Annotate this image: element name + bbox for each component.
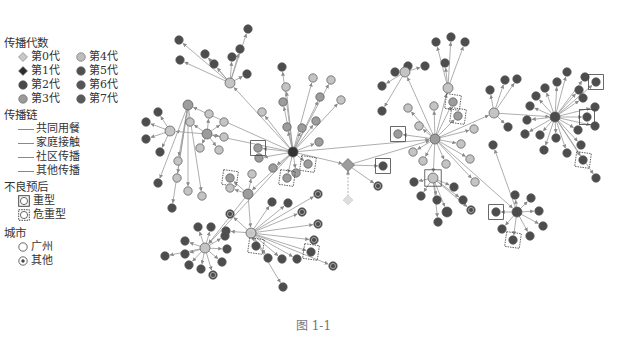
case-node: [268, 198, 276, 206]
case-node: [553, 78, 561, 86]
case-node: [391, 68, 399, 76]
transmission-edge: [183, 43, 230, 83]
case-node: [174, 157, 182, 165]
legend-generation-item: 第4代: [76, 50, 134, 64]
legend-prognosis-item: 重型: [4, 194, 134, 208]
legend-generation-item: 第6代: [76, 78, 134, 92]
generation-circle-icon: [76, 80, 86, 90]
case-node: [536, 131, 544, 139]
case-node: [505, 232, 522, 249]
legend-city-label: 其他: [31, 254, 53, 268]
case-node: [526, 232, 534, 240]
transmission-edge: [293, 140, 429, 152]
transmission-edge: [437, 47, 448, 88]
case-node: [236, 45, 244, 53]
case-node: [142, 118, 150, 126]
transmission-edge: [185, 62, 230, 83]
case-node: [223, 245, 231, 253]
case-node: [574, 126, 582, 134]
square-icon: [18, 195, 30, 207]
case-node: [327, 76, 335, 84]
transmission-edge: [495, 150, 517, 212]
case-node-hub: [225, 78, 235, 88]
case-node: [459, 196, 467, 204]
generation-diamond-icon: [18, 66, 28, 76]
legend-generation-item: 第1代: [18, 64, 76, 78]
legend-chain-label: 共同用餐: [36, 122, 80, 136]
case-node: [563, 149, 571, 157]
case-node: [314, 220, 322, 228]
case-node-hub: [288, 147, 298, 157]
case-node: [457, 140, 465, 148]
case-node: [244, 25, 252, 33]
legend-city-item: 广州: [4, 240, 134, 254]
legend-generation-item: 第7代: [76, 92, 134, 106]
case-node: [210, 60, 218, 68]
transmission-edge: [435, 94, 447, 139]
case-node: [432, 38, 440, 46]
edge-layer: [151, 34, 593, 283]
case-node: [258, 108, 266, 116]
case-node: [248, 170, 256, 178]
case-node: [527, 194, 535, 202]
case-node: [175, 36, 183, 44]
legend-chain-item: 社区传播: [4, 150, 134, 164]
case-node: [278, 63, 286, 71]
transmission-edge: [555, 117, 593, 174]
case-node: [486, 86, 494, 94]
case-node: [580, 110, 595, 125]
case-node: [442, 160, 450, 168]
case-node: [279, 98, 287, 106]
case-node: [314, 190, 322, 198]
case-node-hub: [442, 207, 452, 217]
legend-city-list: 广州其他: [4, 240, 134, 268]
legend-prognosis-list: 重型危重型: [4, 194, 134, 222]
case-node: [312, 117, 320, 125]
case-node-hub: [200, 243, 210, 253]
transmission-edge: [234, 87, 293, 152]
case-node: [282, 83, 290, 91]
case-node-hub: [550, 112, 560, 122]
case-node: [471, 178, 479, 186]
case-node: [221, 232, 229, 240]
legend-generation-item: 第0代: [18, 50, 76, 64]
legend-prognosis-item: 危重型: [4, 208, 134, 222]
legend-chain-title: 传播链: [4, 108, 134, 122]
case-node: [579, 94, 587, 102]
case-node-hub: [165, 126, 175, 136]
legend-chain-item: 家庭接触: [4, 136, 134, 150]
generation-circle-icon: [76, 94, 86, 104]
line-icon: [18, 129, 34, 130]
case-node: [298, 124, 306, 132]
transmission-edge: [435, 115, 489, 139]
legend-chain-list: 共同用餐家庭接触社区传播其他传播: [4, 122, 134, 178]
case-node-hub: [425, 170, 441, 186]
case-node: [142, 135, 150, 143]
case-node: [511, 191, 519, 199]
case-node: [591, 122, 599, 130]
case-node: [498, 225, 506, 233]
case-node: [535, 207, 543, 215]
case-node: [447, 33, 455, 41]
case-node: [441, 59, 449, 67]
case-node: [378, 107, 386, 115]
legend-generation-label: 第3代: [31, 92, 60, 106]
legend-generation-label: 第6代: [89, 78, 118, 92]
generation-circle-icon: [18, 94, 28, 104]
case-node-hub: [183, 100, 193, 110]
case-node-hub: [400, 67, 410, 77]
case-node: [417, 192, 425, 200]
case-node: [194, 223, 202, 231]
case-node: [298, 208, 306, 216]
legend: 传播代数 第0代第4代第1代第5代第2代第6代第3代第7代 传播链 共同用餐家庭…: [4, 34, 134, 268]
case-node: [251, 141, 266, 156]
case-node: [220, 133, 228, 141]
case-node: [589, 75, 604, 90]
legend-generation-label: 第1代: [31, 64, 60, 78]
case-node: [489, 205, 504, 220]
case-node: [391, 127, 406, 142]
legend-city-item: 其他: [4, 254, 134, 268]
case-node: [466, 155, 474, 163]
case-node-hub: [202, 129, 212, 139]
legend-generation-label: 第2代: [31, 78, 60, 92]
